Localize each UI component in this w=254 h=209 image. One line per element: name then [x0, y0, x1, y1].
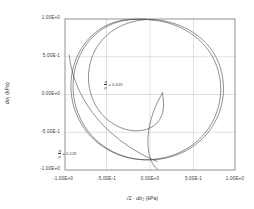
y-axis-title-symbol: dσ [4, 98, 10, 104]
annotation-ratio-upper: q p = 0.415 [104, 80, 123, 90]
y-axis-title: dσ1 (kPa) [5, 65, 12, 121]
y-tick-label-5: -1.00E+0 [14, 167, 60, 172]
x-tick-label-1: -1.00E+0 [41, 177, 85, 182]
curve-outer-envelope-b [73, 19, 223, 160]
x-tick-label-5: 1.00E+0 [213, 177, 254, 182]
grid-lines [65, 19, 235, 170]
annotation-ratio-lower: q p = 0.125 [58, 149, 77, 159]
y-tick-label-1: 1.00E+0 [14, 16, 60, 21]
x-axis-title-symbol: · dσ [133, 195, 142, 201]
y-tick-label-4: -5.00E-1 [14, 130, 60, 135]
y-axis-title-subscript: 1 [7, 96, 11, 98]
y-tick-label-3: 0.00E+0 [14, 92, 60, 97]
x-axis-title-unit: (kPa) [146, 195, 158, 201]
curve-left-sweep [69, 55, 157, 161]
y-tick-label-2: 5.00E-1 [14, 54, 60, 59]
annotation-ratio-lower-value: = 0.125 [61, 152, 76, 156]
x-axis-title-subscript: 2 [142, 198, 144, 202]
x-tick-label-2: -5.00E-1 [85, 177, 129, 182]
annotation-ratio-upper-value: = 0.415 [107, 83, 122, 87]
data-curves [69, 19, 223, 169]
y-axis-title-unit: (kPa) [4, 82, 10, 94]
curve-outer-envelope-a [71, 19, 221, 160]
x-tick-label-3: 0.00E+0 [128, 177, 172, 182]
chart-figure: 1.00E+0 5.00E-1 0.00E+0 -5.00E-1 -1.00E+… [0, 0, 254, 209]
x-tick-label-4: 5.00E-1 [172, 177, 216, 182]
x-axis-title: √2 · dσ2 (kPa) [97, 196, 187, 203]
x-axis-title-prefix: √2 [126, 195, 132, 201]
